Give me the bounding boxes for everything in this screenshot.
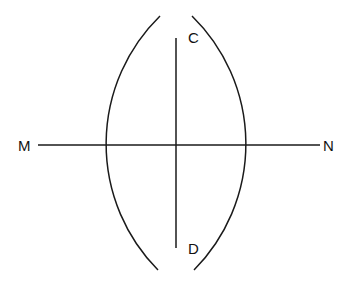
construction-diagram: M N C D xyxy=(0,0,351,284)
label-d: D xyxy=(188,240,199,257)
label-m: M xyxy=(18,137,31,154)
right-arc xyxy=(192,16,246,270)
label-c: C xyxy=(188,29,199,46)
label-n: N xyxy=(323,137,334,154)
left-arc xyxy=(106,16,160,270)
